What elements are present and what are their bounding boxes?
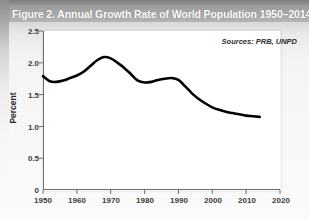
- data-line-growth-rate: [43, 57, 260, 117]
- chart-svg-layer: [0, 0, 309, 220]
- x-axis-ticks: [43, 190, 280, 194]
- y-axis-ticks: [39, 31, 43, 158]
- figure-container: Figure 2. Annual Growth Rate of World Po…: [0, 0, 309, 220]
